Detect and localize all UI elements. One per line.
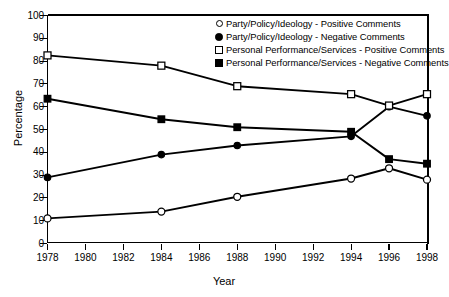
- data-point: [348, 175, 355, 182]
- series-3: [44, 95, 430, 167]
- data-point: [348, 128, 355, 135]
- series-line: [48, 99, 428, 164]
- legend-item-label: Personal Performance/Services - Positive…: [226, 45, 444, 55]
- legend-item: Party/Policy/Ideology - Positive Comment…: [212, 17, 449, 30]
- data-point: [44, 215, 51, 222]
- data-point: [348, 91, 355, 98]
- legend: Party/Policy/Ideology - Positive Comment…: [212, 17, 449, 70]
- legend-item-label: Party/Policy/Ideology - Positive Comment…: [226, 19, 401, 29]
- data-point: [424, 160, 431, 167]
- data-point: [386, 165, 393, 172]
- series-1: [44, 104, 430, 181]
- data-point: [44, 174, 50, 180]
- legend-item: Personal Performance/Services - Positive…: [212, 43, 449, 56]
- data-point: [158, 151, 164, 157]
- data-point: [44, 52, 51, 59]
- data-point: [234, 83, 241, 90]
- filled-square-icon: [212, 59, 226, 67]
- data-point: [424, 113, 430, 119]
- open-circle-icon: [212, 20, 226, 27]
- data-point: [158, 208, 165, 215]
- legend-item: Party/Policy/Ideology - Negative Comment…: [212, 30, 449, 43]
- open-square-icon: [212, 46, 226, 54]
- data-point: [234, 124, 241, 131]
- data-point: [234, 142, 240, 148]
- legend-item-label: Party/Policy/Ideology - Negative Comment…: [226, 32, 405, 42]
- data-point: [158, 116, 165, 123]
- data-point: [386, 102, 393, 109]
- legend-item: Personal Performance/Services - Negative…: [212, 57, 449, 70]
- data-point: [234, 193, 241, 200]
- filled-circle-icon: [212, 33, 226, 41]
- data-point: [386, 156, 393, 163]
- data-point: [424, 176, 431, 183]
- data-point: [158, 62, 165, 69]
- series-0: [44, 165, 431, 222]
- data-point: [44, 95, 51, 102]
- legend-item-label: Personal Performance/Services - Negative…: [226, 58, 449, 68]
- data-point: [424, 91, 431, 98]
